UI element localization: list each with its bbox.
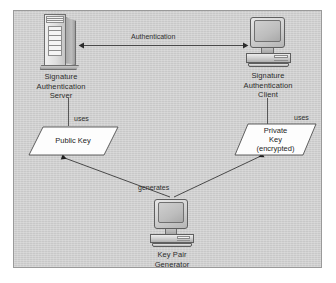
public-key-shape bbox=[29, 127, 118, 155]
key-pair-generator-icon bbox=[150, 199, 194, 249]
generator-public-key-connector bbox=[62, 157, 170, 197]
generator-private-key-connector bbox=[174, 155, 263, 197]
private-key-shape bbox=[235, 124, 316, 155]
diagram-root: Signature Authentication Server Signatur… bbox=[0, 0, 336, 283]
server-tower-icon bbox=[40, 13, 80, 70]
client-computer-icon bbox=[246, 17, 291, 69]
